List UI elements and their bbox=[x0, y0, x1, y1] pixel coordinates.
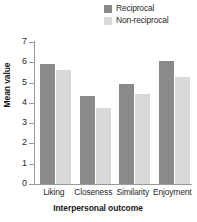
y-axis-tick: 0 bbox=[29, 184, 34, 185]
bar-liking-non-reciprocal bbox=[56, 70, 71, 184]
bar-enjoyment-reciprocal bbox=[159, 61, 174, 184]
y-axis-tick-label: 6 bbox=[22, 56, 27, 66]
bar-liking-reciprocal bbox=[40, 64, 55, 184]
y-axis-tick-label: 1 bbox=[22, 158, 27, 168]
bar-enjoyment-non-reciprocal bbox=[175, 77, 190, 185]
x-axis-title: Interpersonal outcome bbox=[0, 203, 196, 213]
legend-item-non-reciprocal: Non-reciprocal bbox=[104, 15, 196, 26]
y-axis-tick-label: 2 bbox=[22, 137, 27, 147]
bar-similarity-non-reciprocal bbox=[135, 94, 150, 184]
bar-group bbox=[159, 42, 190, 184]
legend-label-non-reciprocal: Non-reciprocal bbox=[116, 16, 168, 25]
legend-swatch-reciprocal bbox=[104, 5, 112, 13]
bar-closeness-non-reciprocal bbox=[96, 108, 111, 184]
x-axis-label-enjoyment: Enjoyment bbox=[147, 187, 197, 197]
bar-chart-figure: Reciprocal Non-reciprocal 01234567 Likin… bbox=[0, 0, 196, 222]
x-axis-line bbox=[34, 184, 192, 185]
legend-item-reciprocal: Reciprocal bbox=[104, 3, 196, 14]
y-axis-tick-label: 0 bbox=[22, 178, 27, 188]
y-axis-tick-label: 7 bbox=[22, 36, 27, 46]
plot-area bbox=[34, 42, 192, 184]
y-axis-title: Mean value bbox=[2, 45, 12, 125]
y-axis-tick-label: 3 bbox=[22, 117, 27, 127]
bar-group bbox=[80, 42, 111, 184]
legend-swatch-non-reciprocal bbox=[104, 17, 112, 25]
bar-group bbox=[40, 42, 71, 184]
y-axis-tick-label: 4 bbox=[22, 97, 27, 107]
y-axis-tick-label: 5 bbox=[22, 77, 27, 87]
bar-closeness-reciprocal bbox=[80, 96, 95, 184]
bar-group bbox=[119, 42, 150, 184]
bar-similarity-reciprocal bbox=[119, 84, 134, 184]
legend-label-reciprocal: Reciprocal bbox=[116, 4, 154, 13]
chart-legend: Reciprocal Non-reciprocal bbox=[104, 3, 196, 27]
